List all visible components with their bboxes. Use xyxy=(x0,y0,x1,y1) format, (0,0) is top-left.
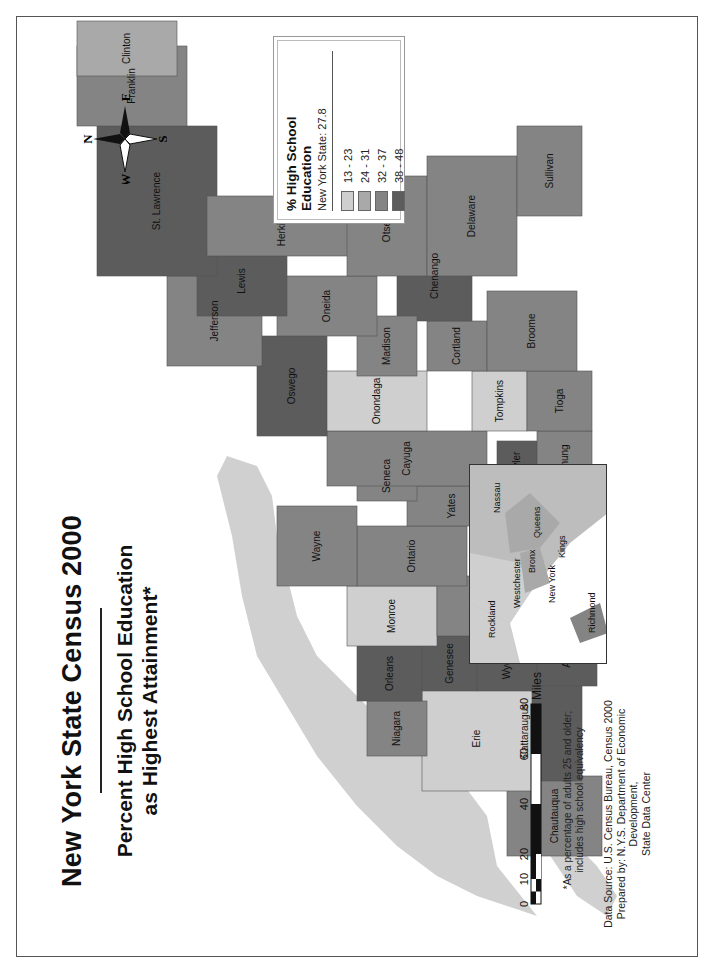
county-label: Cayuga xyxy=(401,441,412,476)
county-label: Wayne xyxy=(311,530,322,561)
legend-label: 13 - 23 xyxy=(342,149,354,183)
svg-text:Queens: Queens xyxy=(532,506,542,538)
title-divider xyxy=(100,609,102,794)
legend-label: 24 - 31 xyxy=(359,149,371,183)
svg-text:10: 10 xyxy=(518,873,530,885)
svg-text:Westchester: Westchester xyxy=(512,558,522,608)
page-subtitle: Percent High School Education as Highest… xyxy=(112,466,162,936)
svg-text:Miles: Miles xyxy=(530,672,544,700)
footnote-line-1: *As a percentage of adults 25 and older; xyxy=(562,680,574,920)
title-block: New York State Census 2000 Percent High … xyxy=(57,466,162,936)
subtitle-line-2: as Highest Attainment* xyxy=(137,466,162,936)
county-label: Ontario xyxy=(406,539,417,572)
page-title: New York State Census 2000 xyxy=(57,466,88,936)
svg-text:New York: New York xyxy=(547,564,557,603)
county-label: Yates xyxy=(446,494,457,519)
svg-text:Rockland: Rockland xyxy=(487,600,497,638)
legend-swatch xyxy=(358,191,371,211)
legend-item: 24 - 31 xyxy=(356,49,373,211)
county-label: Orleans xyxy=(384,656,395,691)
map-page: ChautauquaCattaraugusErieNiagaraOrleansG… xyxy=(16,16,698,957)
county-label: Oswego xyxy=(286,367,297,404)
county-label: Broome xyxy=(526,313,537,348)
legend-title: % High School Education xyxy=(284,49,314,211)
county-label: Clinton xyxy=(121,33,132,64)
legend-state-value: New York State: 27.8 xyxy=(316,49,328,211)
svg-text:0: 0 xyxy=(518,901,530,907)
county-label: Lewis xyxy=(236,268,247,294)
county-label: Madison xyxy=(381,327,392,365)
data-source: Data Source: U.S. Census Bureau, Census … xyxy=(602,684,652,944)
legend-divider xyxy=(332,51,333,211)
svg-text:Kings: Kings xyxy=(557,535,567,558)
legend-label: 32 - 37 xyxy=(376,149,388,183)
svg-text:Nassau: Nassau xyxy=(492,482,502,513)
county-label: Tioga xyxy=(554,388,565,413)
subtitle-line-1: Percent High School Education xyxy=(112,466,137,936)
compass-west-label: W xyxy=(118,174,133,185)
county-label: Tompkins xyxy=(494,380,505,422)
county-label: Niagara xyxy=(391,711,402,746)
footnote-line-2: includes high school equivalency xyxy=(574,680,586,920)
county-label: Chenango xyxy=(429,252,440,299)
county-label: Jefferson xyxy=(209,301,220,342)
footnote: *As a percentage of adults 25 and older;… xyxy=(562,680,586,920)
legend-item: 32 - 37 xyxy=(373,49,390,211)
county-label: Genesee xyxy=(444,643,455,684)
legend-item: 38 - 48 xyxy=(390,49,407,211)
compass-north-label: N xyxy=(83,134,95,144)
source-line-2: Prepared by: N.Y.S. Department of Econom… xyxy=(615,684,640,944)
compass-rose-icon: N S W E xyxy=(83,94,167,184)
legend-label: 38 - 48 xyxy=(393,149,405,183)
county-label: Onondaga xyxy=(371,377,382,424)
legend-swatch xyxy=(392,191,405,211)
nyc-inset-map: Rockland Westchester Bronx New York Quee… xyxy=(469,464,607,664)
source-line-3: State Data Center xyxy=(640,684,653,944)
svg-text:80: 80 xyxy=(518,698,530,710)
svg-text:20: 20 xyxy=(518,848,530,860)
svg-text:Bronx: Bronx xyxy=(527,549,537,573)
legend-item: 13 - 23 xyxy=(339,49,356,211)
county-label: Cortland xyxy=(451,327,462,365)
county-label: Erie xyxy=(471,729,482,747)
county-label: Sullivan xyxy=(544,153,555,188)
scale-bar: 0 10 20 40 60 80 Miles xyxy=(517,668,567,908)
source-line-1: Data Source: U.S. Census Bureau, Census … xyxy=(602,684,615,944)
legend-swatch xyxy=(375,191,388,211)
county-label: Delaware xyxy=(466,194,477,237)
legend-swatch xyxy=(341,191,354,211)
inset-map-graphic: Rockland Westchester Bronx New York Quee… xyxy=(470,464,607,663)
compass-east-label: E xyxy=(118,94,133,101)
svg-text:60: 60 xyxy=(518,748,530,760)
compass-south-label: S xyxy=(155,135,167,142)
county-label: Monroe xyxy=(386,599,397,633)
svg-text:Richmond: Richmond xyxy=(587,592,597,633)
county-label: Seneca xyxy=(381,459,392,493)
svg-text:40: 40 xyxy=(518,798,530,810)
legend: % High School Education New York State: … xyxy=(273,36,405,224)
county-label: Oneida xyxy=(321,289,332,322)
